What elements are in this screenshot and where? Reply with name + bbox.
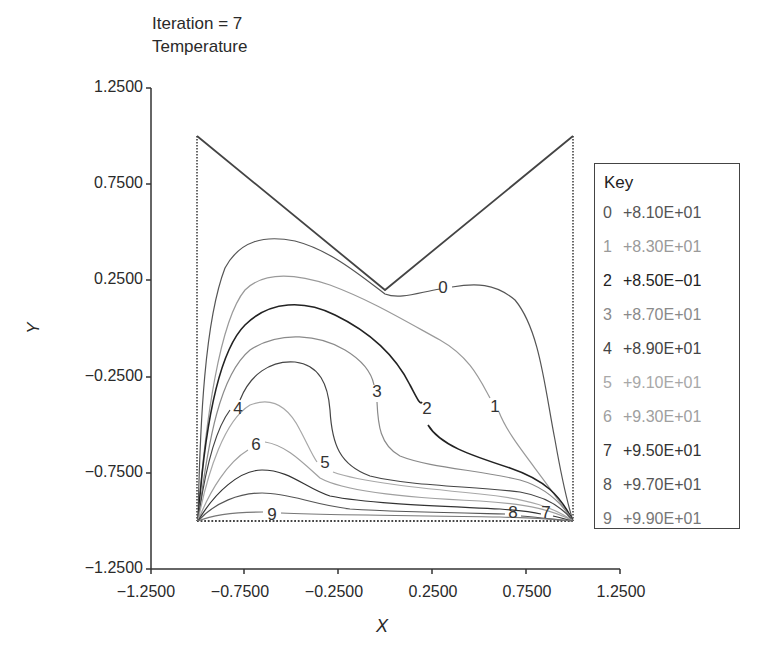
- y-tick-label: −0.7500: [85, 463, 143, 481]
- contour-label: 0: [438, 278, 447, 297]
- x-tick-label: −1.2500: [117, 583, 175, 601]
- domain-boundary: [197, 136, 573, 521]
- legend-entry: 3+8.70E+01: [603, 306, 701, 324]
- contour-lines: [198, 239, 573, 521]
- contour-label: 2: [422, 399, 431, 418]
- legend-entry: 0+8.10E+01: [603, 204, 701, 222]
- contour-label: 4: [233, 399, 242, 418]
- x-tick-label: −0.2500: [305, 583, 363, 601]
- x-tick-label: 0.7500: [503, 583, 552, 601]
- y-tick-label: 1.2500: [94, 78, 143, 96]
- contour-label: 5: [320, 453, 329, 472]
- legend-title: Key: [604, 173, 633, 193]
- x-tick-label: 0.2500: [409, 583, 458, 601]
- y-tick-label: 0.2500: [94, 270, 143, 288]
- legend-entry: 2+8.50E−01: [603, 272, 701, 290]
- legend-entry: 9+9.90E+01: [603, 510, 701, 528]
- y-tick-label: −0.2500: [85, 367, 143, 385]
- legend-entry: 6+9.30E+01: [603, 408, 701, 426]
- legend-entry: 4+8.90E+01: [603, 340, 701, 358]
- contour-label: 6: [251, 435, 260, 454]
- contour-label: 3: [372, 382, 381, 401]
- legend-entry: 8+9.70E+01: [603, 476, 701, 494]
- contour-1: [198, 276, 573, 521]
- legend-entry: 7+9.50E+01: [603, 442, 701, 460]
- legend-entry: 5+9.10E+01: [603, 374, 701, 392]
- legend-key: Key 0+8.10E+01 1+8.30E+01 2+8.50E−01 3+8…: [594, 163, 740, 529]
- y-tick-label: −1.2500: [85, 559, 143, 577]
- contour-label: 7: [541, 503, 550, 522]
- y-axis-label: Y: [24, 322, 44, 333]
- x-tick-label: −0.7500: [211, 583, 269, 601]
- x-axis-label: X: [376, 616, 388, 637]
- contour-label: 8: [508, 503, 517, 522]
- contour-label: 1: [490, 397, 499, 416]
- legend-entry: 1+8.30E+01: [603, 238, 701, 256]
- x-tick-label: 1.2500: [597, 583, 646, 601]
- y-tick-label: 0.7500: [94, 174, 143, 192]
- contour-labels: 0123456789: [233, 278, 550, 524]
- contour-label: 9: [267, 505, 276, 524]
- contour-2: [198, 305, 573, 521]
